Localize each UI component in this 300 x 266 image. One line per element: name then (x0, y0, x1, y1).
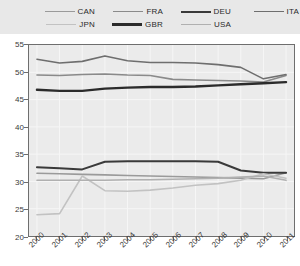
series-line-fra[interactable] (37, 74, 286, 82)
plot-area (28, 44, 295, 237)
legend-swatch-icon (46, 24, 76, 26)
y-tick-label: 40 (0, 122, 24, 131)
legend-swatch-icon (181, 24, 211, 26)
legend-item-usa[interactable]: USA (171, 18, 231, 31)
legend-item-ita[interactable]: ITA (239, 5, 299, 18)
legend-item-fra[interactable]: FRA (103, 5, 163, 18)
y-tick-label: 25 (0, 205, 24, 214)
y-tick-label: 50 (0, 67, 24, 76)
plot-wrapper: 2025303540455055 20002001200220032004200… (0, 34, 300, 266)
series-lines (29, 45, 294, 236)
legend-item-jpn[interactable]: JPN (35, 18, 95, 31)
legend-label: JPN (79, 18, 95, 31)
y-tick-label: 35 (0, 150, 24, 159)
y-tick-label: 30 (0, 177, 24, 186)
legend-swatch-icon (254, 11, 284, 13)
line-chart: CANFRADEUITA JPNGBRUSA 2025303540455055 … (0, 0, 300, 266)
legend-item-can[interactable]: CAN (35, 5, 95, 18)
legend-label: USA (214, 18, 231, 31)
legend-swatch-icon (45, 11, 75, 13)
y-tick-label: 45 (0, 95, 24, 104)
legend-label: GBR (145, 18, 163, 31)
y-axis-labels: 2025303540455055 (0, 44, 24, 237)
legend-label: ITA (287, 5, 299, 18)
chart-legend: CANFRADEUITA JPNGBRUSA (0, 0, 300, 34)
legend-swatch-icon (112, 23, 142, 25)
legend-row-0: CANFRADEUITA (0, 5, 300, 18)
x-axis-labels: 2000200120022003200420052006200720082009… (28, 241, 295, 266)
legend-item-deu[interactable]: DEU (171, 5, 231, 18)
legend-label: DEU (214, 5, 232, 18)
legend-label: FRA (146, 5, 163, 18)
legend-swatch-icon (181, 11, 211, 13)
y-tick-label: 55 (0, 40, 24, 49)
legend-row-1: JPNGBRUSA (0, 18, 300, 31)
y-tick-label: 20 (0, 233, 24, 242)
series-line-gbr[interactable] (37, 82, 286, 91)
legend-swatch-icon (113, 11, 143, 13)
legend-item-gbr[interactable]: GBR (103, 18, 163, 31)
legend-label: CAN (78, 5, 96, 18)
series-line-deu[interactable] (37, 161, 286, 172)
